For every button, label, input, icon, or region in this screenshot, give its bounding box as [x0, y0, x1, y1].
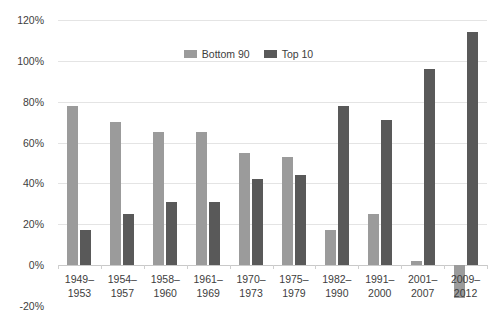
x-tick-label: 1982–1990 [315, 272, 359, 300]
bar-bottom90-0 [67, 106, 78, 265]
y-tick-label: 120% [0, 14, 52, 26]
y-tick-label: 100% [0, 55, 52, 67]
x-tick-label: 1975–1979 [272, 272, 316, 300]
x-tick [487, 265, 488, 269]
bar-top10-4 [252, 179, 263, 265]
x-tick-label: 1961–1969 [186, 272, 230, 300]
y-tick-label: 20% [0, 218, 52, 230]
x-tick [273, 265, 274, 269]
x-tick-label-line2: 2012 [444, 286, 488, 300]
x-tick-label-line1: 2009– [451, 273, 480, 285]
x-tick [358, 265, 359, 269]
x-tick-label: 2009–2012 [444, 272, 488, 300]
x-tick-label-line2: 1960 [143, 286, 187, 300]
x-tick-label-line1: 1961– [194, 273, 223, 285]
bar-top10-8 [424, 69, 435, 265]
x-tick-label-line1: 1970– [236, 273, 265, 285]
bar-top10-3 [209, 202, 220, 265]
x-tick-label-line1: 1954– [108, 273, 137, 285]
x-tick [444, 265, 445, 269]
bar-bottom90-6 [325, 230, 336, 265]
y-tick-label: 0% [0, 259, 52, 271]
x-tick-label-line1: 1949– [65, 273, 94, 285]
x-tick-label-line2: 1969 [186, 286, 230, 300]
x-tick-label-line1: 1991– [365, 273, 394, 285]
x-tick-label-line2: 1953 [57, 286, 101, 300]
bar-bottom90-2 [153, 132, 164, 265]
x-tick-label: 1954–1957 [100, 272, 144, 300]
x-tick-label-line2: 1973 [229, 286, 273, 300]
x-tick-label-line2: 1979 [272, 286, 316, 300]
bar-bottom90-1 [110, 122, 121, 265]
x-tick-label: 1949–1953 [57, 272, 101, 300]
bar-top10-6 [338, 106, 349, 265]
x-axis-ticks [58, 265, 487, 270]
x-tick-label-line1: 1982– [322, 273, 351, 285]
bar-top10-9 [467, 32, 478, 265]
bar-top10-0 [80, 230, 91, 265]
x-axis-labels: 1949–19531954–19571958–19601961–19691970… [58, 272, 487, 314]
x-tick-label: 1991–2000 [358, 272, 402, 300]
bar-bottom90-4 [239, 153, 250, 265]
bar-top10-7 [381, 120, 392, 265]
bar-top10-2 [166, 202, 177, 265]
y-tick-label: 80% [0, 96, 52, 108]
bar-top10-5 [295, 175, 306, 265]
bar-chart: -20%0%20%40%60%80%100%120% 1949–19531954… [0, 0, 497, 318]
x-tick [58, 265, 59, 269]
bar-top10-1 [123, 214, 134, 265]
x-tick-label: 1958–1960 [143, 272, 187, 300]
x-tick-label-line1: 1975– [279, 273, 308, 285]
y-axis-labels: -20%0%20%40%60%80%100%120% [0, 0, 52, 318]
x-tick [144, 265, 145, 269]
y-tick-label: 40% [0, 177, 52, 189]
x-tick [101, 265, 102, 269]
x-tick-label: 2001–2007 [401, 272, 445, 300]
bar-bottom90-7 [368, 214, 379, 265]
x-tick [230, 265, 231, 269]
bar-bottom90-5 [282, 157, 293, 265]
bar-bottom90-3 [196, 132, 207, 265]
x-tick [315, 265, 316, 269]
x-tick-label-line1: 1958– [151, 273, 180, 285]
x-tick-label-line2: 2007 [401, 286, 445, 300]
x-tick [187, 265, 188, 269]
x-tick-label-line1: 2001– [408, 273, 437, 285]
y-tick-label: 60% [0, 137, 52, 149]
x-tick-label-line2: 1990 [315, 286, 359, 300]
x-tick-label: 1970–1973 [229, 272, 273, 300]
x-tick-label-line2: 2000 [358, 286, 402, 300]
y-tick-label: -20% [0, 300, 52, 312]
x-tick-label-line2: 1957 [100, 286, 144, 300]
x-tick [401, 265, 402, 269]
bars-layer [58, 20, 487, 265]
